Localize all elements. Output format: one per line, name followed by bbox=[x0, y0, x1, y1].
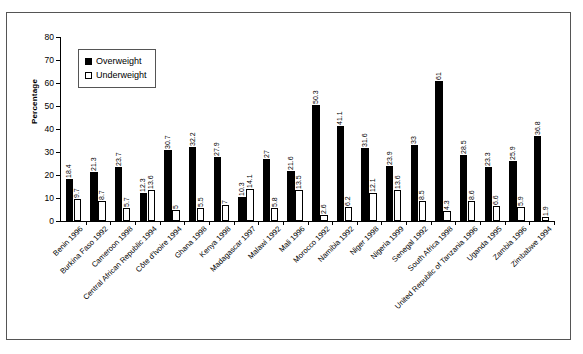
bar-overweight: 10.3 bbox=[238, 197, 245, 221]
y-axis-tick-mark bbox=[56, 198, 60, 199]
y-axis-tick-mark bbox=[56, 129, 60, 130]
bar-value-label: 5 bbox=[172, 205, 179, 209]
bar-underweight: 8.6 bbox=[468, 201, 475, 221]
y-axis-tick-label: 0 bbox=[28, 217, 54, 226]
bar-group: 614.3 bbox=[431, 37, 456, 221]
bar-underweight: 4.3 bbox=[443, 211, 450, 221]
bar-value-label: 9.7 bbox=[74, 188, 81, 198]
bar-group: 10.314.1 bbox=[234, 37, 259, 221]
bar-value-label: 5.5 bbox=[197, 198, 204, 208]
bar-group: 23.913.6 bbox=[381, 37, 406, 221]
x-axis-category-label: Niger 1998 bbox=[375, 225, 380, 230]
bar-overweight: 50.3 bbox=[312, 105, 319, 221]
bar-group: 27.97 bbox=[209, 37, 234, 221]
bar-overweight: 32.2 bbox=[189, 147, 196, 221]
bar-group: 41.16.2 bbox=[332, 37, 357, 221]
bar-value-label: 23.9 bbox=[386, 151, 393, 165]
bar-overweight: 31.6 bbox=[361, 148, 368, 221]
chart-panel: Percentage 01020304050607080 18.49.721.3… bbox=[6, 12, 571, 340]
bar-value-label: 10.3 bbox=[238, 183, 245, 197]
bar-value-label: 32.2 bbox=[189, 132, 196, 146]
bar-overweight: 12.3 bbox=[140, 193, 147, 221]
bar-group: 30.75 bbox=[160, 37, 185, 221]
bar-value-label: 21.6 bbox=[287, 157, 294, 171]
bar-value-label: 13.5 bbox=[295, 175, 302, 189]
bar-underweight: 5.7 bbox=[123, 208, 130, 221]
bar-group: 275.8 bbox=[258, 37, 283, 221]
x-axis-category-labels: Benin 1996Burkina Faso 1992Cameroon 1998… bbox=[61, 225, 555, 335]
bar-underweight: 9.7 bbox=[74, 199, 81, 221]
y-axis-tick-mark bbox=[56, 37, 60, 38]
x-axis-category-label: Senegal 1992 bbox=[424, 225, 429, 230]
legend-item-underweight: Underweight bbox=[85, 68, 147, 82]
bar-underweight: 13.6 bbox=[394, 190, 401, 221]
bar-value-label: 50.3 bbox=[312, 91, 319, 105]
bar-value-label: 41.1 bbox=[337, 112, 344, 126]
x-axis-category-label: Zambia 1996 bbox=[523, 225, 528, 230]
bar-overweight: 36.8 bbox=[534, 136, 541, 221]
bar-group: 36.81.9 bbox=[529, 37, 554, 221]
bar-value-label: 5.8 bbox=[271, 197, 278, 207]
y-axis-tick-mark bbox=[56, 152, 60, 153]
bar-overweight: 23.3 bbox=[485, 167, 492, 221]
bar-value-label: 61 bbox=[435, 72, 442, 80]
bar-group: 21.613.5 bbox=[283, 37, 308, 221]
bar-value-label: 23.3 bbox=[485, 153, 492, 167]
bar-overweight: 30.7 bbox=[164, 150, 171, 221]
bar-value-label: 8.7 bbox=[98, 190, 105, 200]
x-axis-category-label: Uganda 1995 bbox=[498, 225, 503, 230]
bar-value-label: 23.7 bbox=[115, 152, 122, 166]
legend-label-overweight: Overweight bbox=[96, 54, 142, 68]
bar-underweight: 8.7 bbox=[98, 201, 105, 221]
x-axis-category-label: Namibia 1992 bbox=[350, 225, 355, 230]
bar-overweight: 23.7 bbox=[115, 167, 122, 222]
x-axis-category-label: Zimbabwe 1994 bbox=[548, 225, 553, 230]
legend-item-overweight: Overweight bbox=[85, 54, 147, 68]
bar-underweight: 13.5 bbox=[295, 190, 302, 221]
x-axis-category-label: Nigeria 1999 bbox=[400, 225, 405, 230]
bar-value-label: 36.8 bbox=[534, 122, 541, 136]
bar-value-label: 8.6 bbox=[468, 191, 475, 201]
bar-value-label: 21.3 bbox=[90, 157, 97, 171]
y-axis-tick-mark bbox=[56, 60, 60, 61]
bar-value-label: 14.1 bbox=[246, 174, 253, 188]
bar-value-label: 33 bbox=[411, 136, 418, 144]
hollow-square-icon bbox=[85, 72, 92, 79]
bar-group: 28.58.6 bbox=[455, 37, 480, 221]
bar-value-label: 27 bbox=[263, 150, 270, 158]
y-axis-tick-label: 80 bbox=[28, 33, 54, 42]
bar-group: 31.612.1 bbox=[357, 37, 382, 221]
bar-value-label: 28.5 bbox=[460, 141, 467, 155]
bar-underweight: 13.6 bbox=[148, 190, 155, 221]
y-axis-tick-label: 30 bbox=[28, 148, 54, 157]
y-axis-tick-label: 70 bbox=[28, 56, 54, 65]
x-axis-category-label: Côte d'Ivoire 1994 bbox=[178, 225, 183, 230]
bar-value-label: 12.1 bbox=[369, 179, 376, 193]
bar-group: 25.95.9 bbox=[505, 37, 530, 221]
bar-value-label: 5.9 bbox=[517, 197, 524, 207]
y-axis-tick-mark bbox=[56, 221, 60, 222]
x-axis-category-label: United Republic of Tanzania 1996 bbox=[474, 225, 479, 230]
bar-overweight: 21.6 bbox=[287, 171, 294, 221]
y-axis-tick-label: 20 bbox=[28, 171, 54, 180]
bar-overweight: 28.5 bbox=[460, 155, 467, 221]
bar-value-label: 12.3 bbox=[139, 178, 146, 192]
bar-underweight: 14.1 bbox=[246, 189, 253, 221]
bar-value-label: 27.9 bbox=[213, 142, 220, 156]
bar-value-label: 6.6 bbox=[493, 195, 500, 205]
bar-underweight: 8.5 bbox=[419, 201, 426, 221]
bar-overweight: 27.9 bbox=[214, 157, 221, 221]
bar-group: 23.36.6 bbox=[480, 37, 505, 221]
x-axis-category-label: South Africa 1998 bbox=[449, 225, 454, 230]
y-axis-tick-mark bbox=[56, 83, 60, 84]
bar-value-label: 6.2 bbox=[345, 196, 352, 206]
bar-value-label: 13.6 bbox=[147, 175, 154, 189]
bar-value-label: 25.9 bbox=[509, 147, 516, 161]
bar-underweight: 6.6 bbox=[493, 206, 500, 221]
y-axis-tick-label: 50 bbox=[28, 102, 54, 111]
x-axis-category-label: Burkina Faso 1992 bbox=[104, 225, 109, 230]
y-axis-tick-label: 10 bbox=[28, 194, 54, 203]
bar-underweight: 5 bbox=[172, 210, 179, 222]
x-axis-category-label: Morocco 1992 bbox=[326, 225, 331, 230]
bar-group: 50.32.6 bbox=[308, 37, 333, 221]
